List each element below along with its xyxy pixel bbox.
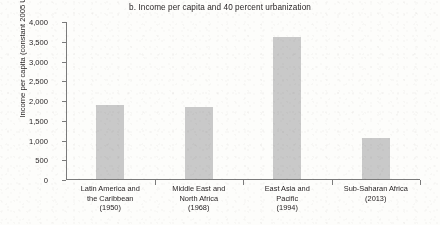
y-axis-tick bbox=[62, 141, 66, 142]
category-label: Sub-Saharan Africa(2013) bbox=[332, 184, 421, 213]
y-axis-tick-label: 500 bbox=[8, 156, 48, 165]
category-separator-tick bbox=[420, 180, 421, 185]
category-label-line: Latin America and bbox=[66, 184, 155, 194]
y-axis-line bbox=[66, 22, 67, 180]
y-axis-tick bbox=[62, 22, 66, 23]
plot-area: 4,0003,5003,0002,5002,0001,5001,0005000 bbox=[66, 22, 420, 180]
category-label-line: (1950) bbox=[66, 203, 155, 213]
y-axis-tick bbox=[62, 81, 66, 82]
chart-title: b. Income per capita and 40 percent urba… bbox=[0, 3, 440, 12]
chart-figure: b. Income per capita and 40 percent urba… bbox=[0, 0, 440, 225]
category-label: Middle East andNorth Africa(1968) bbox=[155, 184, 244, 213]
category-label-line: North Africa bbox=[155, 194, 244, 204]
y-axis-tick bbox=[62, 121, 66, 122]
category-label-line: the Caribbean bbox=[66, 194, 155, 204]
category-label-line: Pacific bbox=[243, 194, 332, 204]
y-axis-tick-label: 2,000 bbox=[8, 97, 48, 106]
category-label-line: (1968) bbox=[155, 203, 244, 213]
y-axis-tick-label: 1,000 bbox=[8, 136, 48, 145]
category-label-line: (2013) bbox=[332, 194, 421, 204]
y-axis-tick-label: 3,000 bbox=[8, 57, 48, 66]
y-axis-tick bbox=[62, 180, 66, 181]
y-axis-tick bbox=[62, 160, 66, 161]
category-label-line: (1994) bbox=[243, 203, 332, 213]
bar bbox=[185, 107, 213, 179]
y-axis-tick-label: 0 bbox=[8, 176, 48, 185]
y-axis-tick-label: 3,500 bbox=[8, 37, 48, 46]
category-label: Latin America andthe Caribbean(1950) bbox=[66, 184, 155, 213]
category-label: East Asia andPacific(1994) bbox=[243, 184, 332, 213]
y-axis-tick-label: 2,500 bbox=[8, 77, 48, 86]
bar bbox=[96, 105, 124, 179]
y-axis-tick-label: 1,500 bbox=[8, 116, 48, 125]
category-label-line: East Asia and bbox=[243, 184, 332, 194]
category-label-line: Sub-Saharan Africa bbox=[332, 184, 421, 194]
y-axis-tick bbox=[62, 101, 66, 102]
category-label-line: Middle East and bbox=[155, 184, 244, 194]
bar bbox=[273, 37, 301, 179]
y-axis-tick-label: 4,000 bbox=[8, 18, 48, 27]
bar bbox=[362, 138, 390, 179]
x-axis-category-labels: Latin America andthe Caribbean(1950)Midd… bbox=[66, 184, 420, 213]
y-axis-tick bbox=[62, 42, 66, 43]
y-axis-tick bbox=[62, 62, 66, 63]
